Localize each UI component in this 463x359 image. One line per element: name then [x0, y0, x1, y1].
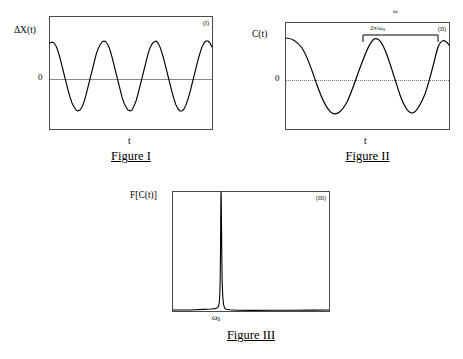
omega-tick-subscript: 0	[217, 316, 220, 322]
figure-3-x-tick-label: ω0	[212, 314, 220, 323]
figure-2-omega-label: ω	[393, 8, 398, 15]
figure-2-y-axis-label: C(t)	[252, 30, 267, 40]
figure-1-zero-tick: 0	[38, 73, 43, 82]
figure-3-caption: Figure III	[172, 329, 330, 342]
figure-1-y-axis-label: ΔX(t)	[14, 26, 36, 36]
figure-1-waveform	[50, 17, 212, 129]
figure-2-waveform	[286, 23, 449, 129]
figure-3-y-axis-label: F[C(t)]	[130, 191, 157, 201]
figure-1-x-axis-label: t	[128, 137, 131, 147]
figure-3-peak-curve	[173, 192, 329, 311]
figure-3-plot-box: (III)	[172, 191, 330, 312]
figure-3-panel: F[C(t)] (III) ω0 Figure III	[100, 180, 380, 359]
figure-2-x-axis-label: t	[364, 137, 367, 147]
figure-2-plot-box: (II)	[285, 22, 450, 130]
figure-2-zero-tick: 0	[275, 74, 280, 83]
period-label-prefix: 2π/ω	[370, 24, 383, 31]
figure-2-panel: ω C(t) (II) 2π/ω0 0 t Figure II	[231, 0, 463, 175]
figure-1-plot-box: (I)	[49, 16, 213, 130]
figure-2-period-annotation: 2π/ω0	[370, 25, 385, 33]
period-label-subscript: 0	[383, 27, 385, 32]
figure-page: ΔX(t) (I) 0 t Figure I ω C(t) (II)	[0, 0, 463, 359]
figure-1-panel: ΔX(t) (I) 0 t Figure I	[0, 0, 231, 175]
figure-2-caption: Figure II	[285, 150, 450, 163]
figure-1-caption: Figure I	[49, 150, 213, 163]
